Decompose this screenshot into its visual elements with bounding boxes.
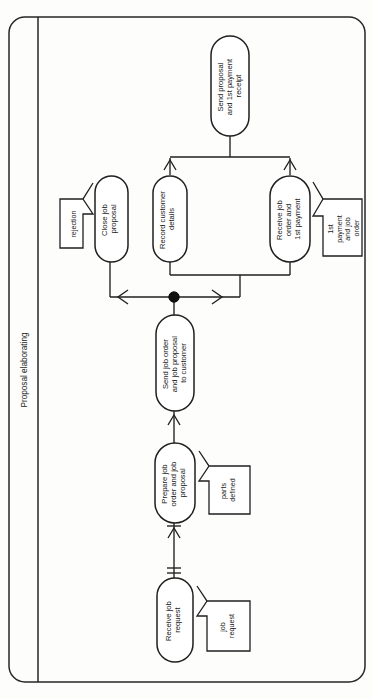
node-send-proposal-and-1st-payment-receipt[interactable]: Send proposal and 1st payment receipt (211, 36, 249, 136)
node-close-job-proposal[interactable]: Close job proposal (95, 176, 128, 262)
artifact-rejection: rejection (60, 183, 93, 248)
pool-title: Proposal elaborating (20, 332, 29, 408)
artifact-parts-defined: parts defined (199, 451, 250, 514)
process-flow-diagram: Proposal elaborating (0, 0, 373, 699)
connector-layer (110, 136, 296, 578)
artifact-job-request: job request (197, 586, 250, 651)
flow-diagram-canvas: Proposal elaborating (0, 0, 373, 699)
node-prepare-job-order-and-job-proposal[interactable]: Prepare job order and job proposal (155, 443, 195, 523)
node-receive-job-order-and-1st-payment[interactable]: Receive job order and 1st payment (270, 176, 310, 262)
artifact-parts-defined-label: parts defined (219, 478, 237, 502)
artifact-rejection-label: rejection (69, 210, 78, 237)
node-close-job-proposal-label: Close job proposal (100, 202, 118, 236)
pool-title-label: Proposal elaborating (20, 332, 29, 408)
artifact-job-request-shape (197, 586, 250, 651)
decision-junction-dot (169, 292, 179, 302)
node-send-job-order-and-job-proposal-to-customer[interactable]: Send job order and job proposal to custo… (156, 315, 194, 411)
node-receive-job-request[interactable]: Receive job request (157, 578, 193, 662)
node-record-customer-details[interactable]: Record customer details (153, 176, 187, 262)
node-receive-job-order-label: Receive job order and 1st payment (275, 197, 302, 239)
artifact-1st-payment-and-job-order: 1st payment and job order (313, 182, 362, 256)
